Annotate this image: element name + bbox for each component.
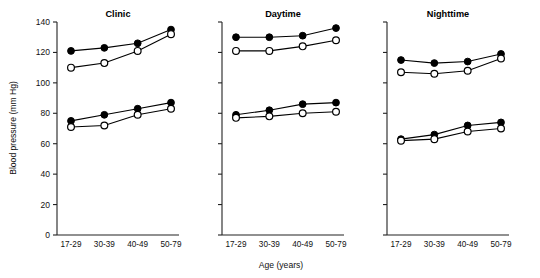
- data-point-0-0-1: [101, 44, 108, 51]
- data-point-1-0-2: [299, 32, 306, 39]
- data-point-0-0-2: [134, 40, 141, 47]
- data-point-1-1-0: [233, 48, 240, 55]
- x-tick-label-0-0: 17-29: [61, 240, 82, 249]
- data-point-0-0-0: [68, 48, 75, 55]
- data-point-1-3-3: [333, 108, 340, 115]
- data-point-0-3-1: [101, 122, 108, 129]
- x-tick-label-1-3: 50-79: [326, 240, 347, 249]
- data-point-1-0-1: [266, 34, 273, 41]
- x-tick-label-0-3: 50-79: [161, 240, 182, 249]
- data-point-1-2-2: [299, 101, 306, 108]
- x-tick-label-2-3: 50-79: [491, 240, 512, 249]
- data-point-2-3-0: [398, 137, 405, 144]
- panel-title-daytime: Daytime: [265, 9, 301, 19]
- data-point-1-3-0: [233, 114, 240, 121]
- y-tick-label-7: 140: [36, 17, 50, 27]
- data-point-0-1-0: [68, 64, 75, 71]
- y-tick-label-6: 120: [36, 47, 50, 57]
- x-tick-label-1-0: 17-29: [226, 240, 247, 249]
- data-point-0-2-1: [101, 111, 108, 118]
- data-point-1-1-1: [266, 48, 273, 55]
- x-tick-label-0-1: 30-39: [94, 240, 115, 249]
- series-line-0-1: [71, 34, 171, 67]
- data-point-0-1-2: [134, 48, 141, 55]
- x-tick-label-1-1: 30-39: [259, 240, 280, 249]
- data-point-0-1-1: [101, 60, 108, 67]
- x-tick-label-0-2: 40-49: [127, 240, 148, 249]
- data-point-0-3-3: [168, 105, 175, 112]
- y-tick-label-4: 80: [41, 108, 51, 118]
- y-tick-label-3: 60: [41, 139, 51, 149]
- data-point-2-3-1: [431, 136, 438, 143]
- x-tick-label-2-1: 30-39: [424, 240, 445, 249]
- panel-title-nighttime: Nighttime: [427, 9, 469, 19]
- series-line-2-1: [401, 59, 501, 74]
- y-axis-title: Blood pressure (mm Hg): [8, 81, 18, 175]
- y-tick-label-5: 100: [36, 78, 50, 88]
- x-tick-label-2-0: 17-29: [391, 240, 412, 249]
- data-point-1-3-1: [266, 113, 273, 120]
- data-point-2-3-3: [498, 125, 505, 132]
- data-point-1-3-2: [299, 110, 306, 117]
- x-axis-title: Age (years): [259, 260, 304, 270]
- data-point-0-1-3: [168, 31, 175, 38]
- data-point-1-1-2: [299, 43, 306, 50]
- blood-pressure-figure: Clinic02040608010012014017-2930-3940-495…: [0, 0, 540, 278]
- series-line-0-0: [71, 30, 171, 51]
- data-point-2-1-0: [398, 69, 405, 76]
- x-tick-label-2-2: 40-49: [457, 240, 478, 249]
- data-point-1-0-3: [333, 25, 340, 32]
- chart-canvas: Clinic02040608010012014017-2930-3940-495…: [0, 0, 540, 278]
- series-line-2-0: [401, 54, 501, 63]
- data-point-2-0-0: [398, 57, 405, 64]
- y-tick-label-2: 40: [41, 169, 51, 179]
- x-tick-label-1-2: 40-49: [292, 240, 313, 249]
- y-tick-label-0: 0: [45, 230, 50, 240]
- data-point-0-3-0: [68, 124, 75, 131]
- data-point-2-0-1: [431, 60, 438, 67]
- data-point-0-3-2: [134, 111, 141, 118]
- data-point-2-3-2: [464, 128, 471, 135]
- data-point-2-0-2: [464, 58, 471, 65]
- data-point-1-1-3: [333, 37, 340, 44]
- y-tick-label-1: 20: [41, 200, 51, 210]
- series-line-1-0: [236, 28, 336, 37]
- data-point-2-1-3: [498, 55, 505, 62]
- data-point-2-1-2: [464, 67, 471, 74]
- data-point-1-2-3: [333, 99, 340, 106]
- series-line-1-1: [236, 40, 336, 51]
- series-line-2-2: [401, 122, 501, 139]
- panel-title-clinic: Clinic: [105, 9, 130, 19]
- data-point-2-1-1: [431, 70, 438, 77]
- data-point-1-0-0: [233, 34, 240, 41]
